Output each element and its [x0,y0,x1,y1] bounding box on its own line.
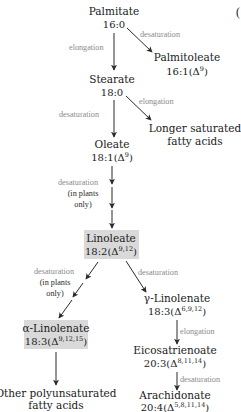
node-name: Palmitate [89,5,139,17]
node-line2: fatty acids [167,135,222,147]
node-name: Arachidonate [138,389,210,401]
node-palmitoleate: Palmitoleate 16:1(Δ9) [154,51,220,77]
edge-label-desaturation: desaturation [138,268,178,277]
corner-glyph: ( [236,5,240,19]
node-eicosatrienoate: Eicosatrienoate 20:3(Δ8,11,14) [133,344,216,369]
node-formula: 18:1(Δ9) [91,151,133,163]
node-stearate: Stearate 18:0 [89,73,135,98]
node-other-polyunsaturated-fatty-acids: Other polyunsaturated fatty acids [0,387,117,411]
fatty-acid-pathway-diagram: ( Palmitate 16:0 elongation desaturation… [0,0,241,412]
edge-label-desaturation: desaturation [140,30,180,39]
node-name: Linoleate [86,232,136,244]
edge-label-elongation: elongation [69,43,104,52]
node-alpha-linolenate: α-Linolenate 18:3(Δ9,12,15) [22,320,89,349]
node-formula: 18:0 [101,87,123,98]
edge-label-elongation: elongation [180,327,215,336]
edge-note-only: only) [46,289,64,298]
node-oleate: Oleate 18:1(Δ9) [91,138,133,163]
edge-note-only: only) [74,200,92,209]
node-formula: 20:3(Δ8,11,14) [144,357,206,369]
node-gamma-linolenate: γ-Linolenate 18:3(Δ6,9,12) [144,292,210,317]
edge-label-desaturation: desaturation [58,178,98,187]
node-name: Oleate [95,138,130,150]
node-line1: Other polyunsaturated [0,387,117,399]
node-formula: 16:1(Δ9) [166,65,208,77]
node-formula: 16:0 [103,19,125,30]
node-name: Stearate [89,73,135,85]
edge-label-elongation: elongation [139,97,174,106]
node-line1: Longer saturated [149,122,241,134]
node-name: γ-Linolenate [144,292,210,304]
node-formula: 18:3(Δ6,9,12) [148,305,206,317]
edge-note-in-plants: (in plants [40,278,71,287]
node-name: α-Linolenate [22,322,89,334]
edge-label-desaturation: desaturation [34,267,74,276]
edge-label-desaturation: desaturation [180,375,220,384]
node-palmitate: Palmitate 16:0 [89,5,139,30]
node-longer-saturated-fatty-acids: Longer saturated fatty acids [149,122,241,147]
node-line2: fatty acids [28,399,83,411]
node-formula: 20:4(Δ5,8,11,14) [141,401,210,412]
edge-label-desaturation: desaturation [59,110,99,119]
node-name: Palmitoleate [154,51,220,63]
edge-note-in-plants: (in plants [68,189,99,198]
node-linoleate: Linoleate 18:2(Δ9,12) [84,230,139,259]
node-name: Eicosatrienoate [133,344,216,356]
node-arachidonate: Arachidonate 20:4(Δ5,8,11,14) [138,389,210,412]
